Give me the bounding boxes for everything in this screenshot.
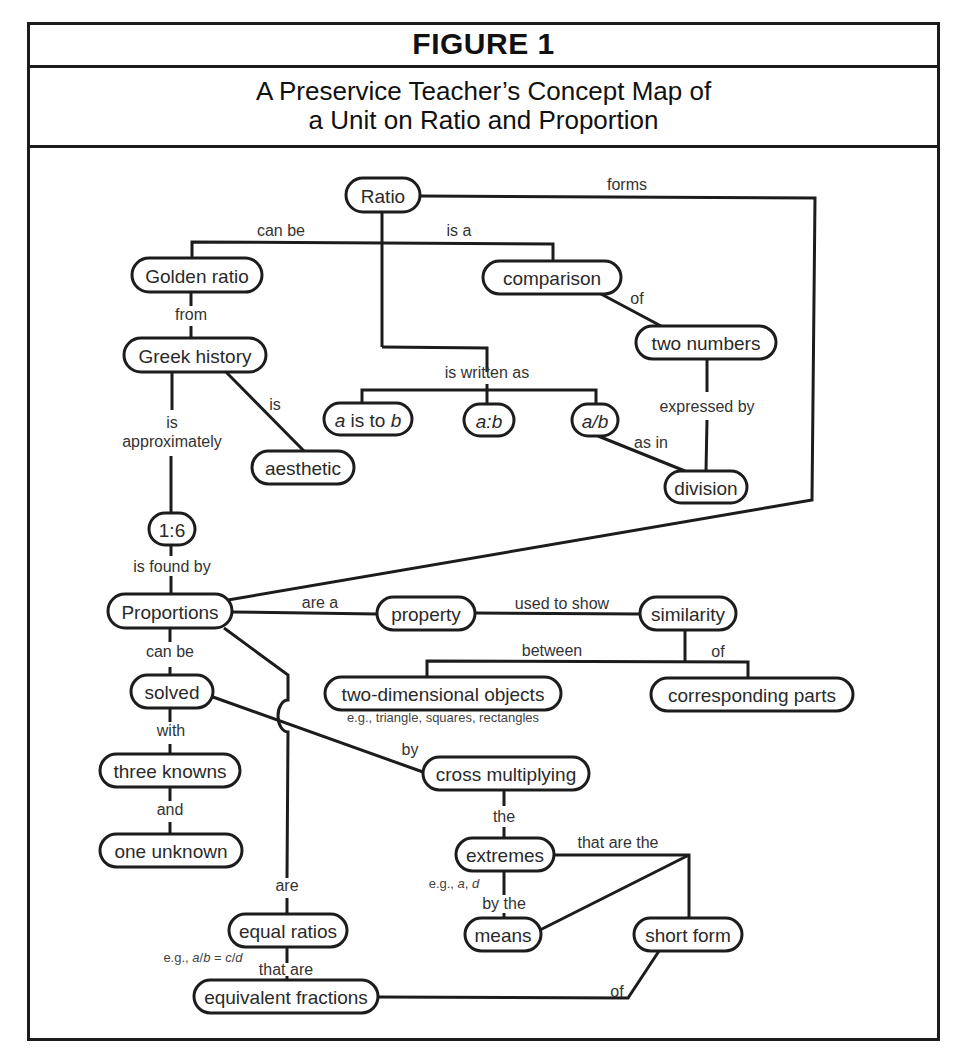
- linking-phrase: can be: [257, 222, 305, 239]
- linking-phrase: are: [275, 877, 298, 894]
- node-label: division: [674, 478, 737, 499]
- linking-phrase: as in: [634, 434, 668, 451]
- edge-similarity-bar: [427, 661, 748, 678]
- concept-node-division: division: [665, 471, 747, 503]
- concept-node-one-unknown: one unknown: [100, 834, 242, 867]
- concept-node-property: property: [377, 597, 475, 630]
- concept-node-solved: solved: [131, 675, 213, 708]
- node-label: equivalent fractions: [204, 987, 368, 1008]
- concept-node-one-point-six: 1:6: [149, 513, 195, 545]
- concept-map-canvas: RatioGolden ratiocomparisonGreek history…: [0, 0, 962, 1061]
- linking-phrase: approximately: [122, 433, 222, 450]
- node-label: Proportions: [121, 602, 218, 623]
- linking-phrase: is a: [447, 222, 472, 239]
- concept-node-corresponding-parts: corresponding parts: [651, 678, 853, 711]
- node-label: Golden ratio: [145, 266, 249, 287]
- linking-phrase: by the: [482, 895, 526, 912]
- concept-node-two-numbers: two numbers: [636, 326, 776, 359]
- linking-phrase: is: [166, 414, 178, 431]
- concept-node-a-colon-b: a:b: [464, 404, 514, 436]
- node-label: equal ratios: [239, 921, 337, 942]
- concept-node-ratio: Ratio: [346, 178, 420, 212]
- concept-node-equal-ratios: equal ratios: [229, 914, 347, 947]
- node-label: two-dimensional objects: [342, 684, 545, 705]
- concept-node-comparison: comparison: [483, 261, 621, 294]
- node-label: property: [391, 604, 461, 625]
- node-label: extremes: [466, 845, 544, 866]
- edge-property-similarity: [475, 613, 640, 614]
- linking-phrase: expressed by: [659, 398, 754, 415]
- concept-node-greek-history: Greek history: [124, 338, 266, 372]
- concept-node-means: means: [465, 918, 541, 951]
- node-label: aesthetic: [265, 458, 341, 479]
- linking-phrase: is found by: [133, 558, 210, 575]
- linking-phrase: by: [402, 741, 419, 758]
- edge-greek-aesthetic: [226, 372, 304, 451]
- node-label: three knowns: [113, 761, 226, 782]
- linking-phrase: used to show: [515, 595, 610, 612]
- node-label: one unknown: [114, 841, 227, 862]
- concept-node-extremes: extremes: [456, 838, 554, 871]
- linking-phrase: of: [610, 983, 624, 1000]
- linking-phrase: is written as: [445, 364, 529, 381]
- example-note: e.g., triangle, squares, rectangles: [347, 710, 540, 725]
- edge-expressed-division: [706, 420, 707, 471]
- concept-node-cross-multiplying: cross multiplying: [423, 757, 589, 790]
- linking-phrase: that are: [259, 961, 313, 978]
- node-label: a is to b: [335, 410, 402, 431]
- concept-node-short-form: short form: [634, 918, 742, 951]
- node-label: short form: [645, 925, 731, 946]
- linking-phrase: is: [269, 396, 281, 413]
- linking-phrase: are a: [302, 594, 339, 611]
- linking-phrase: and: [157, 801, 184, 818]
- linking-phrase: of: [711, 643, 725, 660]
- node-label: Ratio: [361, 186, 405, 207]
- concept-node-proportions: Proportions: [108, 594, 232, 628]
- example-note: e.g., a, d: [429, 876, 480, 891]
- concept-node-a-slash-b: a/b: [572, 404, 618, 436]
- linking-phrase: the: [493, 808, 515, 825]
- concept-node-golden-ratio: Golden ratio: [132, 258, 262, 292]
- concept-node-aesthetic: aesthetic: [252, 451, 354, 484]
- concept-node-three-knowns: three knowns: [100, 754, 240, 787]
- node-label: similarity: [651, 604, 725, 625]
- concept-node-two-dimensional-objects: two-dimensional objects: [325, 677, 561, 710]
- node-label: a:b: [476, 411, 502, 432]
- example-note: e.g., a/b = c/d: [163, 950, 243, 965]
- node-label: corresponding parts: [668, 685, 836, 706]
- concept-node-similarity: similarity: [640, 597, 736, 630]
- linking-phrase: that are the: [578, 834, 659, 851]
- node-label: 1:6: [159, 520, 185, 541]
- linking-phrase: from: [175, 306, 207, 323]
- node-label: a/b: [582, 411, 608, 432]
- node-label: Greek history: [139, 346, 252, 367]
- linking-phrase: can be: [146, 643, 194, 660]
- node-label: solved: [145, 682, 200, 703]
- edge-proportions-property: [232, 612, 377, 614]
- concept-node-a-is-to-b: a is to b: [324, 403, 412, 435]
- concept-map-figure: FIGURE 1 A Preservice Teacher’s Concept …: [0, 0, 962, 1061]
- node-label: two numbers: [652, 333, 761, 354]
- linking-phrase: with: [156, 722, 185, 739]
- node-label: cross multiplying: [436, 764, 576, 785]
- linking-phrase: forms: [607, 176, 647, 193]
- linking-phrase: of: [630, 290, 644, 307]
- node-label: comparison: [503, 268, 601, 289]
- concept-node-equivalent-fractions: equivalent fractions: [194, 980, 378, 1013]
- node-label: means: [474, 925, 531, 946]
- linking-phrase: between: [522, 642, 583, 659]
